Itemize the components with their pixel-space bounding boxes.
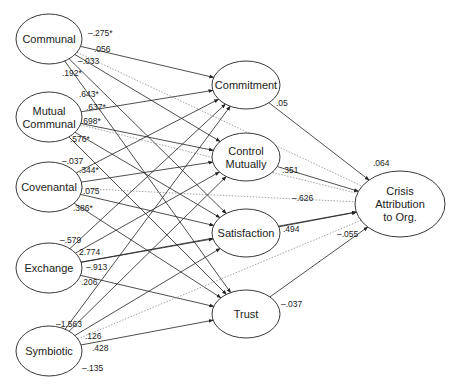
node-label: Crisis — [386, 185, 414, 197]
node-label: Trust — [234, 308, 259, 320]
edge-coefficient-label: .064 — [373, 158, 390, 168]
edge-coefficient-label: .05 — [276, 98, 288, 108]
edge-coefficient-label: .428 — [92, 343, 109, 353]
node-label: Communal — [22, 118, 75, 130]
edge-coefficient-label: –.913 — [86, 262, 108, 272]
node-label: Attribution — [375, 198, 425, 210]
edge-coefficient-label: –.579 — [60, 235, 82, 245]
edge-coefficient-label: .056 — [94, 44, 111, 54]
edge-coefficient-label: –1.563 — [56, 319, 82, 329]
edge-coefficient-label: .576* — [70, 134, 91, 144]
edge-coefficient-label: 2.774 — [79, 247, 101, 257]
edge-coefficient-label: –.135 — [82, 363, 104, 373]
edge-coefficient-label: .494 — [283, 224, 300, 234]
node-label: Covenantal — [21, 181, 77, 193]
edge-symbiotic-to-commitment — [65, 106, 230, 329]
node-control-mutually: ControlMutually — [212, 133, 280, 181]
node-trust: Trust — [212, 290, 280, 338]
node-label: Commitment — [215, 79, 277, 91]
node-label: Mutual — [32, 105, 65, 117]
edge-coefficient-label: .698* — [81, 116, 102, 126]
node-label: Exchange — [25, 262, 74, 274]
edge-coefficient-label: .351 — [282, 165, 299, 175]
edge-coefficient-label: –.055 — [337, 229, 359, 239]
path-diagram: CommunalMutualCommunalCovenantalExchange… — [0, 0, 451, 390]
node-label: Symbiotic — [25, 345, 73, 357]
edge-covenantal-to-control-mutually — [81, 162, 212, 182]
node-commitment: Commitment — [212, 61, 280, 109]
edge-coefficient-label: .344* — [79, 165, 100, 175]
node-label: Satisfaction — [218, 227, 275, 239]
node-label: Communal — [22, 33, 75, 45]
edge-coefficient-label: –.275* — [88, 28, 113, 38]
node-exchange: Exchange — [16, 243, 82, 293]
edge-coefficient-label: .126 — [85, 331, 102, 341]
edge-coefficient-label: .075 — [83, 186, 100, 196]
edge-coefficient-label: .206 — [81, 277, 98, 287]
edge-mutual-communal-to-control-mutually — [81, 123, 213, 150]
edge-coefficient-label: –.626 — [292, 193, 314, 203]
edge-covenantal-to-satisfaction — [81, 194, 214, 225]
edge-coefficient-label: .386* — [73, 203, 94, 213]
node-symbiotic: Symbiotic — [16, 326, 82, 376]
node-crisis: CrisisAttributionto Org. — [355, 171, 445, 237]
edge-coefficient-label: .192* — [62, 68, 83, 78]
edge-coefficient-label: .643* — [79, 89, 100, 99]
node-label: Control — [228, 145, 263, 157]
edge-coefficient-label: –.037 — [281, 299, 303, 309]
node-label: Mutually — [226, 158, 267, 170]
node-satisfaction: Satisfaction — [212, 209, 280, 257]
edge-coefficient-label: –.033 — [78, 56, 100, 66]
node-communal: Communal — [16, 14, 82, 64]
node-label: to Org. — [383, 211, 417, 223]
edge-coefficient-label: .637* — [86, 102, 107, 112]
